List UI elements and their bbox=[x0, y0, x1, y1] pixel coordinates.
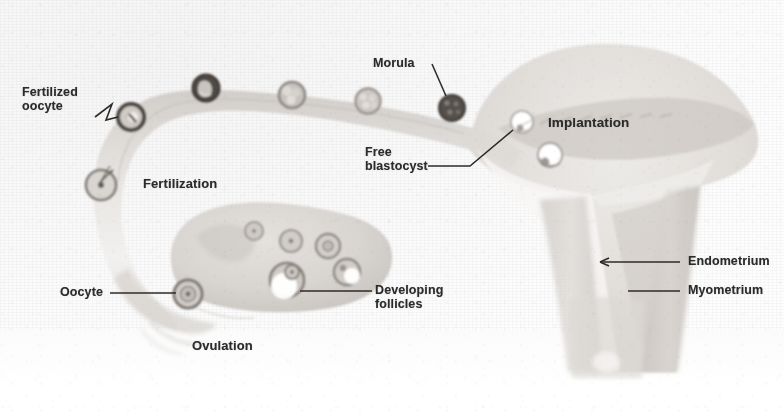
ruptured-follicle bbox=[174, 280, 202, 308]
label-fertilized-oocyte: Fertilized oocyte bbox=[22, 86, 78, 113]
label-oocyte: Oocyte bbox=[60, 286, 103, 300]
label-morula: Morula bbox=[373, 57, 415, 71]
primordial-follicle bbox=[245, 222, 263, 240]
antral-follicle bbox=[334, 259, 360, 285]
leader-fertilized-oocyte bbox=[95, 104, 118, 120]
leader-morula bbox=[432, 64, 446, 96]
figure-canvas: Fertilized oocyte Fertilization Oocyte O… bbox=[0, 0, 784, 414]
cervix-region bbox=[568, 297, 644, 378]
stage-morula bbox=[439, 95, 465, 121]
primary-follicle bbox=[280, 230, 302, 252]
label-ovulation: Ovulation bbox=[192, 339, 253, 353]
stage-implanting-blastocyst bbox=[538, 143, 562, 167]
fertilization-oocyte-icon bbox=[86, 166, 116, 200]
label-myometrium: Myometrium bbox=[688, 284, 763, 298]
stage-fertilized-oocyte bbox=[118, 104, 144, 130]
secondary-follicle bbox=[316, 234, 340, 258]
stage-two-cell bbox=[193, 75, 220, 102]
label-developing-follicles: Developing follicles bbox=[375, 284, 443, 311]
stage-four-cell bbox=[279, 82, 305, 108]
label-endometrium: Endometrium bbox=[688, 255, 770, 269]
ovary bbox=[171, 202, 392, 318]
stage-eight-cell bbox=[356, 89, 381, 114]
label-free-blastocyst: Free blastocyst bbox=[365, 146, 428, 173]
label-fertilization: Fertilization bbox=[143, 177, 217, 191]
graafian-follicle bbox=[270, 263, 304, 299]
label-implantation: Implantation bbox=[548, 116, 629, 131]
